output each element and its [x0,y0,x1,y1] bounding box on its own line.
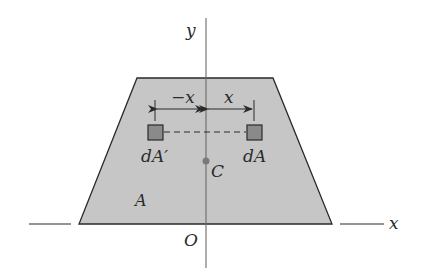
area-label: A [133,191,147,210]
x-axis-label: x [389,213,399,233]
element-dA-label: dA [243,146,266,166]
diagram-canvas: y x O C A dA′ dA −x x [0,0,427,274]
origin-label: O [184,230,198,250]
dim-right-label: x [224,87,234,107]
dim-left-label: −x [171,87,195,107]
y-axis-label: y [185,20,196,40]
element-dA-prime [148,125,163,140]
element-dA [247,125,262,140]
element-dA-prime-label: dA′ [141,146,168,166]
centroid-label: C [211,161,224,181]
centroid-point [203,158,210,165]
